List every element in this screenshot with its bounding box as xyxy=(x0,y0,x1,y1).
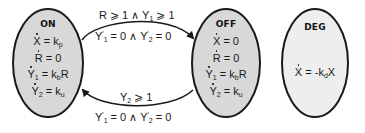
state-off-eq-r: R = 0 xyxy=(196,52,256,64)
state-on-eq-r: R = 0 xyxy=(18,52,78,64)
state-off-eq-x: X = 0 xyxy=(196,35,256,47)
state-deg-title: DEG xyxy=(295,22,335,32)
state-on-eq-y2: Y2 = ku xyxy=(18,85,78,97)
transition-off-to-on-guard: Y2 ⩾ 1 xyxy=(120,91,152,103)
state-on-title: ON xyxy=(28,19,68,29)
transition-on-to-off-reset: Y′1 = 0 ∧ Y′2 = 0 xyxy=(95,30,171,42)
state-off-title: OFF xyxy=(206,19,246,29)
state-off-eq-y2: Y2 = ku xyxy=(196,85,256,97)
transition-on-to-off-guard: R ⩾ 1 ∧ Y1 ⩾ 1 xyxy=(99,9,175,21)
state-on-eq-y1: Y1 = kbR xyxy=(18,68,78,80)
state-off-eq-y1: Y1 = kbR xyxy=(196,68,256,80)
state-deg-eq-x: X = -kdX xyxy=(280,66,350,78)
state-on-eq-x: X = kp xyxy=(18,35,78,47)
transition-off-to-on-reset: Y′1 = 0 ∧ Y′2 = 0 xyxy=(95,111,171,123)
